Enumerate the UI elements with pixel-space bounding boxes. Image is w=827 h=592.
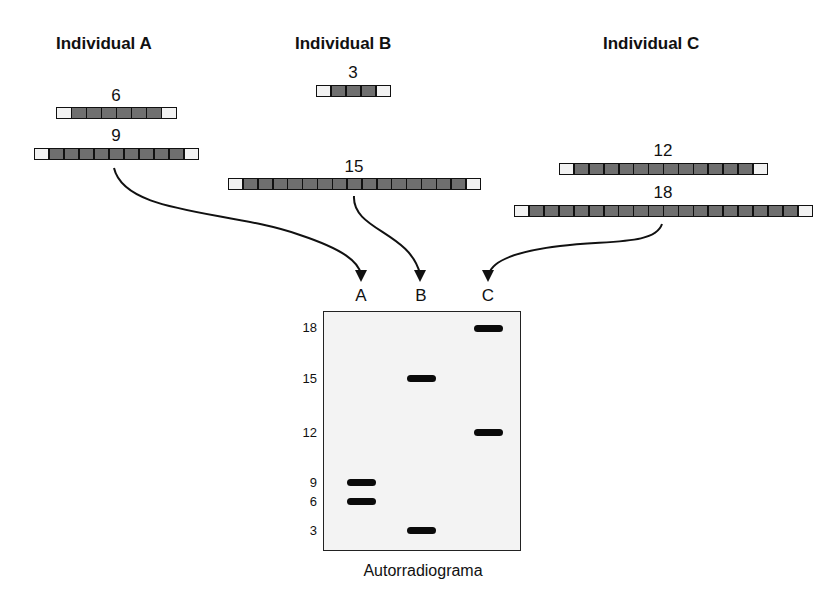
lane-c-label: C bbox=[473, 286, 503, 306]
band-a-6 bbox=[347, 498, 376, 505]
size-marker-6: 6 bbox=[293, 494, 317, 509]
autoradiogram-gel bbox=[323, 311, 521, 551]
band-b-3 bbox=[407, 527, 436, 534]
arrow-c-icon bbox=[489, 224, 662, 274]
size-marker-18: 18 bbox=[293, 320, 317, 335]
gel-caption: Autorradiograma bbox=[323, 562, 523, 580]
band-c-18 bbox=[474, 325, 503, 332]
size-marker-12: 12 bbox=[293, 425, 317, 440]
arrow-a-icon bbox=[114, 168, 361, 274]
lane-b-label: B bbox=[406, 286, 436, 306]
band-b-15 bbox=[407, 375, 436, 382]
band-a-9 bbox=[347, 479, 376, 486]
arrow-b-icon bbox=[354, 196, 420, 274]
size-marker-9: 9 bbox=[293, 475, 317, 490]
size-marker-15: 15 bbox=[293, 371, 317, 386]
size-marker-3: 3 bbox=[293, 523, 317, 538]
band-c-12 bbox=[474, 429, 503, 436]
lane-a-label: A bbox=[346, 286, 376, 306]
